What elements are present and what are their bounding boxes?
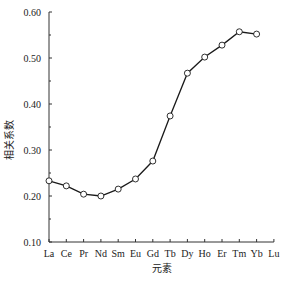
data-point-marker xyxy=(81,191,87,197)
data-point-marker xyxy=(150,158,156,164)
x-tick-label: Gd xyxy=(147,248,159,259)
data-series xyxy=(46,29,260,199)
data-point-marker xyxy=(115,186,121,192)
x-tick-label: La xyxy=(44,248,55,259)
y-tick-label: 0.20 xyxy=(24,191,42,202)
x-tick-label: Ce xyxy=(61,248,73,259)
data-point-marker xyxy=(167,113,173,119)
data-point-marker xyxy=(236,29,242,35)
x-axis: LaCePrNdSmEuGdTbDyHoErTmYbLu xyxy=(44,239,280,259)
y-tick-label: 0.30 xyxy=(24,145,42,156)
data-point-marker xyxy=(133,176,139,182)
y-tick-label: 0.60 xyxy=(24,7,42,18)
x-tick-label: Ho xyxy=(199,248,211,259)
x-tick-label: Nd xyxy=(95,248,107,259)
data-point-marker xyxy=(202,54,208,60)
x-tick-label: Tm xyxy=(232,248,246,259)
x-tick-label: Pr xyxy=(79,248,89,259)
y-tick-label: 0.50 xyxy=(24,53,42,64)
data-point-marker xyxy=(46,178,52,184)
data-point-marker xyxy=(184,70,190,76)
data-point-marker xyxy=(63,183,69,189)
x-tick-label: Yb xyxy=(250,248,262,259)
data-point-marker xyxy=(219,42,225,48)
line-chart: 0.100.200.300.400.500.60 LaCePrNdSmEuGdT… xyxy=(0,0,286,282)
x-tick-label: Lu xyxy=(268,248,279,259)
x-tick-label: Eu xyxy=(130,248,141,259)
x-tick-label: Sm xyxy=(112,248,126,259)
x-axis-title: 元素 xyxy=(152,262,172,274)
data-point-marker xyxy=(254,31,260,37)
x-tick-label: Dy xyxy=(181,248,193,259)
x-tick-label: Er xyxy=(217,248,227,259)
y-axis: 0.100.200.300.400.500.60 xyxy=(24,7,53,248)
y-tick-label: 0.10 xyxy=(24,237,42,248)
data-point-marker xyxy=(98,193,104,199)
y-axis-title: 相关系数 xyxy=(3,120,15,160)
y-tick-label: 0.40 xyxy=(24,99,42,110)
series-line xyxy=(49,32,257,196)
x-tick-label: Tb xyxy=(165,248,176,259)
